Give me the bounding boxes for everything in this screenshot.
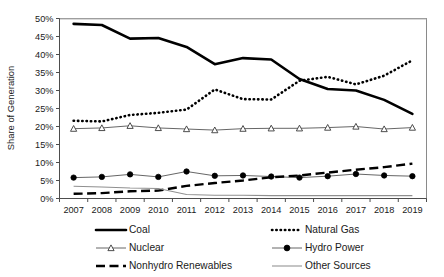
- x-tick-label: 2016: [317, 205, 337, 215]
- y-axis-ticks: 50%45%40%35%30%25%20%15%10%5%0%: [35, 14, 59, 204]
- legend-item-coal[interactable]: Coal: [96, 224, 150, 235]
- x-tick-label: 2019: [402, 205, 422, 215]
- legend-item-other-sources[interactable]: Other Sources: [272, 260, 371, 271]
- x-tick-label: 2013: [233, 205, 253, 215]
- x-tick-label: 2011: [177, 205, 197, 215]
- y-tick-label: 30%: [35, 86, 53, 96]
- series-marker-hydro-power: [184, 169, 189, 174]
- series-marker-hydro-power: [325, 173, 330, 178]
- chart-container: 50%45%40%35%30%25%20%15%10%5%0% 20072008…: [0, 0, 444, 277]
- y-tick-label: 40%: [35, 50, 53, 60]
- plot-frame: [60, 19, 427, 199]
- legend-item-hydro-power[interactable]: Hydro Power: [272, 242, 364, 253]
- y-tick-label: 20%: [35, 122, 53, 132]
- legend-label: Natural Gas: [305, 224, 359, 235]
- series-marker-hydro-power: [212, 173, 217, 178]
- series-line-nonhydro-renewables: [74, 164, 413, 194]
- x-tick-label: 2015: [289, 205, 309, 215]
- series-marker-hydro-power: [71, 175, 76, 180]
- x-axis-ticks: 2007200820092010201120122013201420152016…: [60, 199, 427, 215]
- legend-marker-circle-icon: [284, 245, 290, 251]
- y-tick-label: 10%: [35, 158, 53, 168]
- y-tick-label: 35%: [35, 68, 53, 78]
- legend-label: Coal: [129, 224, 150, 235]
- legend-item-nonhydro-renewables[interactable]: Nonhydro Renewables: [96, 260, 232, 271]
- series-marker-hydro-power: [156, 174, 161, 179]
- series-marker-hydro-power: [410, 173, 415, 178]
- legend-label: Hydro Power: [305, 242, 364, 253]
- line-chart-figure: 50%45%40%35%30%25%20%15%10%5%0% 20072008…: [0, 0, 444, 277]
- x-tick-label: 2010: [148, 205, 168, 215]
- y-tick-label: 5%: [40, 176, 53, 186]
- y-tick-label: 0%: [40, 194, 53, 204]
- y-tick-label: 15%: [35, 140, 53, 150]
- y-tick-label: 45%: [35, 32, 53, 42]
- legend-item-natural-gas[interactable]: Natural Gas: [272, 224, 359, 235]
- series-line-natural-gas: [74, 60, 413, 121]
- data-series-group: [71, 24, 416, 196]
- x-tick-label: 2017: [346, 205, 366, 215]
- series-line-other-sources: [74, 186, 413, 195]
- x-tick-label: 2018: [374, 205, 394, 215]
- x-tick-label: 2014: [261, 205, 281, 215]
- legend-label: Nonhydro Renewables: [129, 260, 232, 271]
- x-tick-label: 2009: [120, 205, 140, 215]
- series-marker-hydro-power: [99, 174, 104, 179]
- x-tick-label: 2007: [63, 205, 83, 215]
- series-marker-hydro-power: [240, 173, 245, 178]
- x-tick-label: 2008: [92, 205, 112, 215]
- y-axis-title: Share of Generation: [5, 66, 16, 150]
- legend-label: Other Sources: [305, 260, 371, 271]
- chart-legend: CoalNatural GasNuclearHydro PowerNonhydr…: [96, 224, 371, 271]
- x-tick-label: 2012: [205, 205, 225, 215]
- series-marker-hydro-power: [127, 172, 132, 177]
- series-marker-hydro-power: [381, 173, 386, 178]
- series-line-coal: [74, 24, 413, 114]
- y-tick-label: 50%: [35, 14, 53, 24]
- legend-label: Nuclear: [129, 242, 165, 253]
- series-marker-hydro-power: [353, 171, 358, 176]
- y-tick-label: 25%: [35, 104, 53, 114]
- legend-item-nuclear[interactable]: Nuclear: [96, 242, 165, 253]
